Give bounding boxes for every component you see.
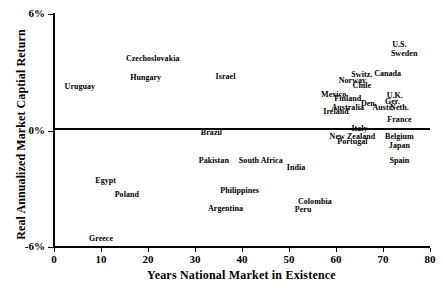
y-tick-label: 6% [29, 8, 46, 19]
data-point-label: Philippines [220, 187, 259, 195]
data-point-label: Uruguay [65, 83, 96, 91]
x-tick-mark [383, 248, 384, 252]
data-point-label: France [387, 116, 411, 124]
data-point-label: Greece [89, 235, 113, 243]
data-point-label: Argentina [208, 205, 243, 213]
data-point-label: Sweden [391, 50, 418, 58]
x-tick-mark [289, 248, 290, 252]
data-point-label: Canada [374, 70, 401, 78]
data-point-label: Portugal [337, 138, 367, 146]
x-tick-label: 0 [39, 253, 69, 265]
x-tick-label: 30 [180, 253, 210, 265]
x-tick-label: 60 [321, 253, 351, 265]
scatter-chart: 010203040506070806%0%-6% UruguayCzechosl… [0, 0, 443, 290]
data-point-label: Chile [353, 82, 371, 90]
y-tick-mark [48, 247, 54, 248]
x-tick-mark [430, 248, 431, 252]
y-tick-mark [48, 14, 54, 15]
x-tick-mark [148, 248, 149, 252]
x-tick-label: 20 [133, 253, 163, 265]
x-tick-mark [54, 248, 55, 252]
data-point-label: Hungary [130, 74, 161, 82]
data-point-label: Egypt [95, 177, 116, 185]
x-tick-mark [195, 248, 196, 252]
x-tick-mark [336, 248, 337, 252]
x-tick-label: 70 [368, 253, 398, 265]
data-point-label: Peru [295, 206, 312, 214]
data-point-label: India [287, 164, 305, 172]
data-point-label: Czechoslovakia [126, 55, 180, 63]
x-tick-mark [101, 248, 102, 252]
data-point-label: South Africa [239, 157, 283, 165]
data-point-label: Japan [389, 142, 410, 150]
x-tick-label: 40 [227, 253, 257, 265]
data-point-label: Israel [216, 73, 236, 81]
x-tick-mark [242, 248, 243, 252]
x-axis-title: Years National Market in Existence [53, 268, 430, 283]
x-tick-label: 50 [274, 253, 304, 265]
x-tick-label: 80 [415, 253, 443, 265]
y-tick-mark [48, 131, 54, 132]
data-point-label: Poland [115, 191, 139, 199]
data-point-label: Pakistan [199, 157, 229, 165]
data-point-label: Spain [390, 157, 410, 165]
y-axis-title: Real Annualized Market Captial Return [14, 10, 29, 260]
y-tick-label: 0% [29, 125, 46, 136]
zero-reference-line [53, 128, 430, 130]
x-tick-label: 10 [86, 253, 116, 265]
data-point-label: Ireland [323, 108, 349, 116]
data-point-label: Neth. [390, 104, 409, 112]
data-point-label: Brazil [201, 129, 222, 137]
